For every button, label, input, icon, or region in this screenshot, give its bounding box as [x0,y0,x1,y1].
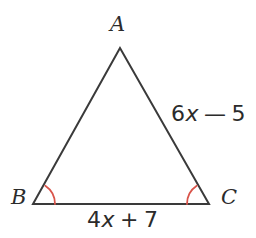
side-ac-variable: x [186,101,200,126]
geometry-figure: A B C 6x—5 4x+7 [0,0,256,238]
vertex-label-b: B [11,187,26,208]
side-ac-operator: — [204,101,227,126]
side-bc-coefficient: 4 [87,207,102,232]
side-ac-coefficient: 6 [171,101,186,126]
side-bc-variable: x [102,207,116,232]
triangle-abc [33,48,209,204]
side-label-bc: 4x+7 [87,209,158,231]
vertex-label-c: C [221,187,237,208]
vertex-label-a: A [110,14,125,35]
side-bc-constant: 7 [144,207,159,232]
side-bc-operator: + [120,207,139,232]
side-label-ac: 6x—5 [171,103,246,125]
side-ac-constant: 5 [232,101,247,126]
